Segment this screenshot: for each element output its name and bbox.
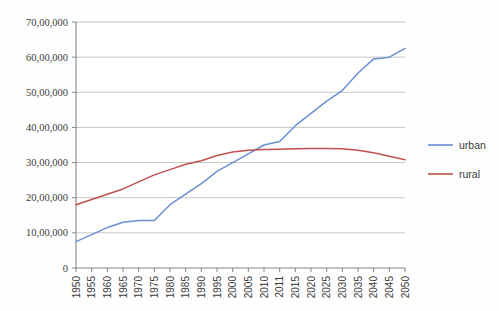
x-axis-tick-label-2050: 2050 <box>400 276 411 299</box>
y-axis-tick-label: 20,00,000 <box>26 192 68 203</box>
x-axis-tick-label-1970: 1970 <box>133 276 144 299</box>
x-axis-tick-label-2030: 2030 <box>337 276 348 299</box>
x-axis-tick-label-2015: 2015 <box>290 276 301 299</box>
y-axis-tick-label: 40,00,000 <box>26 122 68 133</box>
plot-background <box>76 22 405 268</box>
x-axis-tick-label-1965: 1965 <box>118 276 129 299</box>
x-axis-tick-label-2040: 2040 <box>368 276 379 299</box>
legend-label-urban: urban <box>459 139 486 151</box>
legend-label-rural: rural <box>459 168 480 180</box>
x-axis-tick-label-2035: 2035 <box>353 276 364 299</box>
chart-screenshot: 010,00,00020,00,00030,00,00040,00,00050,… <box>0 0 499 311</box>
x-axis-tick-label-1995: 1995 <box>212 276 223 299</box>
x-axis-tick-label-2010: 2010 <box>259 276 270 299</box>
y-axis-tick-label: 60,00,000 <box>26 52 68 63</box>
x-axis-tick-label-1980: 1980 <box>165 276 176 299</box>
x-axis-tick-label-2045: 2045 <box>384 276 395 299</box>
line-chart: 010,00,00020,00,00030,00,00040,00,00050,… <box>0 0 499 311</box>
x-axis-tick-label-1955: 1955 <box>86 276 97 299</box>
x-axis-tick-label-1975: 1975 <box>149 276 160 299</box>
y-axis-tick-label: 70,00,000 <box>26 17 68 28</box>
y-axis-tick-label: 10,00,000 <box>26 227 68 238</box>
y-axis-tick-label: 30,00,000 <box>26 157 68 168</box>
x-axis-tick-label-1960: 1960 <box>102 276 113 299</box>
x-axis-tick-label-2005: 2005 <box>243 276 254 299</box>
x-axis-tick-label-1950: 1950 <box>71 276 82 299</box>
x-axis-tick-label-2011: 2011 <box>274 276 285 298</box>
x-axis-tick-label-1985: 1985 <box>180 276 191 299</box>
chart-canvas: 010,00,00020,00,00030,00,00040,00,00050,… <box>0 0 499 311</box>
x-axis-tick-label-1990: 1990 <box>196 276 207 299</box>
y-axis-tick-label: 50,00,000 <box>26 87 68 98</box>
y-axis-tick-label: 0 <box>63 263 68 274</box>
x-axis-tick-label-2020: 2020 <box>306 276 317 299</box>
x-axis-tick-label-2025: 2025 <box>321 276 332 299</box>
x-axis-tick-label-2000: 2000 <box>227 276 238 299</box>
